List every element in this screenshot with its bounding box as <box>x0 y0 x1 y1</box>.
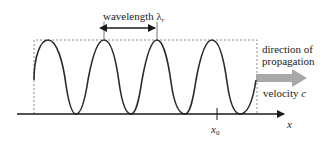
direction-line-2: propagation <box>262 55 315 67</box>
wavelength-text: wavelength <box>103 10 154 22</box>
x0-subscript: 0 <box>216 129 220 137</box>
velocity-symbol: c <box>301 87 306 99</box>
velocity-label: velocity c <box>263 87 306 99</box>
envelope-box <box>34 40 257 114</box>
x-axis-label: x <box>287 118 292 130</box>
wavelength-label: wavelength λr <box>103 10 165 26</box>
x0-label: x0 <box>211 123 219 139</box>
axis-symbol: x <box>287 118 292 130</box>
wavelength-subscript: r <box>162 16 165 24</box>
wave-curve <box>34 40 256 114</box>
direction-line-1: direction of <box>262 43 315 55</box>
direction-label: direction of propagation <box>262 43 315 67</box>
propagation-arrow <box>256 69 307 87</box>
velocity-text: velocity <box>263 87 298 99</box>
